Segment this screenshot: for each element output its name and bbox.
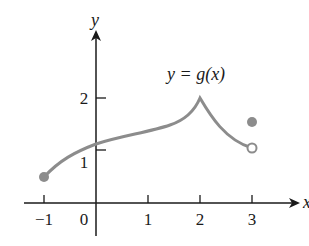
curve-label: y = g(x) (165, 64, 225, 85)
y-axis-label: y (89, 10, 99, 30)
x-tick-label: 2 (196, 210, 205, 229)
y-tick-label: 2 (80, 89, 89, 108)
x-tick-label: 3 (248, 210, 257, 229)
graph: −1 0 1 2 3 1 2 y x y = g(x) (0, 0, 309, 246)
x-tick-label: 0 (80, 210, 89, 229)
curve-g (44, 98, 252, 177)
y-tick-label: 1 (80, 153, 89, 172)
filled-point-3 (247, 117, 257, 127)
x-axis-label: x (302, 192, 309, 212)
x-tick-label: −1 (35, 210, 53, 229)
x-tick-label: 1 (144, 210, 153, 229)
filled-point-start (39, 172, 49, 182)
x-ticks (44, 195, 252, 203)
open-point-3 (248, 144, 257, 153)
